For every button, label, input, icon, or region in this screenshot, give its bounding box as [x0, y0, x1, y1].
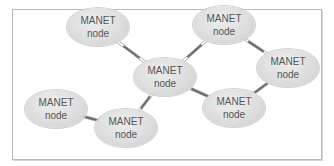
manet-node-n5: MANET node	[25, 90, 87, 128]
node-label-line1: MANET	[207, 12, 242, 25]
node-label-line2: node	[115, 128, 137, 141]
manet-node-n3: MANET node	[134, 58, 196, 96]
manet-node-n6: MANET node	[95, 109, 157, 147]
manet-node-n2: MANET node	[193, 6, 255, 44]
node-label-line2: node	[213, 25, 235, 38]
node-label-line2: node	[154, 77, 176, 90]
manet-node-n7: MANET node	[203, 89, 265, 127]
node-label-line1: MANET	[217, 95, 252, 108]
node-label-line1: MANET	[148, 64, 183, 77]
node-label-line2: node	[45, 109, 67, 122]
node-label-line2: node	[277, 68, 299, 81]
node-label-line2: node	[223, 108, 245, 121]
manet-node-n4: MANET node	[257, 49, 319, 87]
manet-node-n1: MANET node	[67, 8, 129, 46]
node-label-line2: node	[87, 27, 109, 40]
node-label-line1: MANET	[271, 55, 306, 68]
node-label-line1: MANET	[39, 96, 74, 109]
node-label-line1: MANET	[81, 14, 116, 27]
node-label-line1: MANET	[109, 115, 144, 128]
